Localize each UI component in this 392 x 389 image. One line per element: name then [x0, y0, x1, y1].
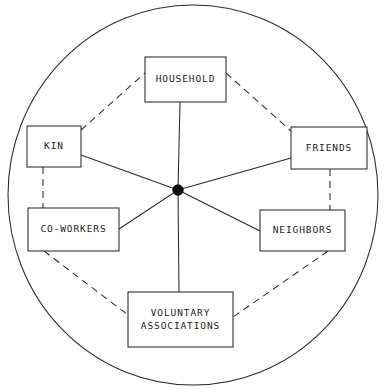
personal-network-diagram: HOUSEHOLDKINFRIENDSCO-WORKERSNEIGHBORSVO… — [0, 0, 392, 389]
link-neighbors-voluntary-associations — [233, 251, 328, 317]
ego-hub-dot — [173, 185, 183, 195]
node-neighbors: NEIGHBORS — [260, 210, 345, 251]
link-co-workers-voluntary-associations — [44, 251, 128, 315]
alter-alter-links-group — [43, 73, 330, 317]
spoke-ego-voluntary-associations — [178, 190, 179, 292]
node-label-kin: KIN — [44, 140, 64, 151]
node-label-friends: FRIENDS — [306, 142, 352, 153]
node-label-co-workers: CO-WORKERS — [40, 223, 106, 234]
spoke-ego-kin — [81, 155, 178, 190]
spoke-ego-household — [178, 102, 180, 190]
network-nodes-group: HOUSEHOLDKINFRIENDSCO-WORKERSNEIGHBORSVO… — [27, 57, 367, 347]
node-kin: KIN — [27, 126, 81, 167]
node-label-neighbors: NEIGHBORS — [273, 224, 333, 235]
node-voluntary-associations: VOLUNTARYASSOCIATIONS — [128, 292, 233, 347]
network-canvas: HOUSEHOLDKINFRIENDSCO-WORKERSNEIGHBORSVO… — [0, 0, 392, 389]
node-friends: FRIENDS — [291, 127, 367, 169]
spoke-ego-friends — [178, 158, 291, 190]
ego-alter-spokes-group — [81, 102, 291, 292]
node-co-workers: CO-WORKERS — [28, 208, 119, 251]
link-kin-household — [81, 73, 145, 130]
node-household: HOUSEHOLD — [145, 57, 226, 102]
node-label-voluntary-associations: VOLUNTARY — [151, 307, 211, 318]
spoke-ego-neighbors — [178, 190, 260, 231]
node-label-voluntary-associations: ASSOCIATIONS — [141, 320, 220, 331]
node-label-household: HOUSEHOLD — [156, 73, 216, 84]
link-household-friends — [226, 73, 291, 131]
spoke-ego-co-workers — [119, 190, 178, 229]
